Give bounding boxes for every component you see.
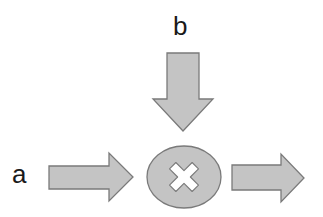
output-arrow — [232, 154, 304, 202]
diagram-canvas — [0, 0, 323, 217]
multiply-diagram: a b — [0, 0, 323, 217]
input-b-label: b — [173, 13, 187, 39]
multiply-node — [147, 146, 221, 208]
input-b-arrow — [153, 53, 213, 131]
input-a-arrow — [49, 153, 133, 201]
input-a-label: a — [12, 161, 26, 187]
